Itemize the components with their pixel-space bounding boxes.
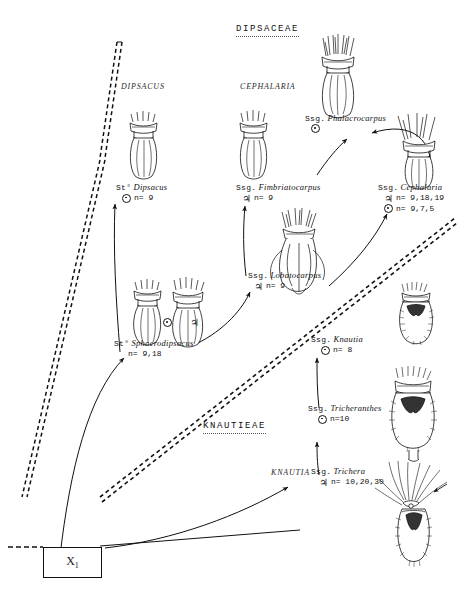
taxon-label-cephalaria[interactable]: Ssg. Cephalaria ♃ n= 9,18,19 n= 9,7,5 xyxy=(378,182,444,213)
chromosome-row xyxy=(311,124,386,133)
genus-label-cephalaria: CEPHALARIA xyxy=(240,82,296,91)
perennial-symbol-icon: ♃ xyxy=(254,282,263,291)
taxon-rank: Ssg. xyxy=(305,114,325,123)
taxon-label-phalacrocarpus[interactable]: Ssg. Phalacrocarpus xyxy=(305,113,386,133)
taxon-rank: Ssg. xyxy=(308,404,328,413)
diagram-lines-layer xyxy=(0,0,470,601)
chromosome-count: n= 9 xyxy=(266,281,285,290)
annual-symbol-icon xyxy=(163,318,172,327)
taxon-name: Trichera xyxy=(334,466,366,476)
boundary-band-dipsacus xyxy=(100,42,122,158)
annual-symbol-icon xyxy=(384,204,393,213)
arrow-tricheranthes-to-knautia xyxy=(317,358,319,408)
illustration-tricheranthes-achene xyxy=(389,366,437,461)
chromosome-count: n= 9,18,19 xyxy=(396,193,444,202)
chromosome-count: n=10 xyxy=(330,414,349,423)
annual-symbol-icon xyxy=(311,124,320,133)
chromosome-row-annual: n= 9,7,5 xyxy=(384,204,444,213)
taxon-rank: St° xyxy=(116,183,131,192)
boundary-band-knautieae xyxy=(100,218,457,502)
taxon-name: Cephalaria xyxy=(401,182,443,192)
sphaerodipsacus-lifeform-symbols: ♃ xyxy=(163,318,199,327)
chromosome-row: n= 9,18 xyxy=(128,349,194,358)
illustration-cephalaria-achene xyxy=(398,113,435,189)
illustration-trichera-achene xyxy=(375,461,447,567)
ancestor-label: X1 xyxy=(66,554,79,570)
taxon-label-tricheranthes[interactable]: Ssg. Tricheranthes n=10 xyxy=(308,403,382,424)
illustration-phalacrocarpus-achene xyxy=(322,34,354,118)
chromosome-row: n=10 xyxy=(318,414,382,423)
taxon-rank: Ssg. xyxy=(236,183,256,192)
arrow-lobatocarpus-to-cephalaria xyxy=(329,214,387,286)
chromosome-row: n= 9 xyxy=(122,193,167,202)
ancestor-box[interactable]: X1 xyxy=(43,547,102,578)
taxon-label-dipsacus[interactable]: St° Dipsacus n= 9 xyxy=(116,182,167,203)
ancestral-branch-line xyxy=(100,530,300,546)
taxon-name: Tricheranthes xyxy=(331,403,382,413)
taxon-label-lobatocarpus[interactable]: Ssg. Lobatocarpus ♃ n= 9 xyxy=(248,270,321,291)
taxon-label-sphaerodipsacus[interactable]: St° Sphaerodipsacus n= 9,18 xyxy=(114,338,194,359)
chromosome-count: n= 10,20,30 xyxy=(331,477,384,486)
perennial-symbol-icon: ♃ xyxy=(242,194,251,203)
arrow-lobatocarpus-to-fimbriatocarpus xyxy=(244,206,246,276)
taxon-label-knautia[interactable]: Ssg. Knautia n= 8 xyxy=(311,334,363,355)
arrow-x1-to-trichera xyxy=(105,487,288,548)
taxon-rank: Ssg. xyxy=(378,183,398,192)
arrow-sphaerodipsacus-to-lobatocarpus xyxy=(196,292,250,344)
tribe-heading: KNAUTIEAE xyxy=(203,421,266,434)
arrow-sphaerodipsacus-to-dipsacus xyxy=(114,204,120,352)
chromosome-count: n= 8 xyxy=(333,345,352,354)
taxon-name: Sphaerodipsacus xyxy=(131,338,193,348)
annual-symbol-icon xyxy=(318,415,327,424)
taxon-rank: St° xyxy=(114,339,129,348)
taxon-rank: Ssg. xyxy=(311,335,331,344)
arrow-x1-to-sphaerodipsacus xyxy=(60,358,124,556)
family-heading: DIPSACEAE xyxy=(236,24,299,37)
taxon-name: Dipsacus xyxy=(133,182,167,192)
chromosome-row: ♃ n= 10,20,30 xyxy=(319,477,384,486)
taxon-name: Knautia xyxy=(334,334,364,344)
perennial-symbol-icon: ♃ xyxy=(384,194,393,203)
chromosome-row: ♃ n= 9 xyxy=(242,193,321,202)
taxon-name: Fimbriatocarpus xyxy=(259,182,321,192)
illustration-sphaerodipsacus-achene-right xyxy=(173,277,204,347)
chromosome-count: n= 9 xyxy=(134,193,153,202)
chromosome-row: n= 8 xyxy=(321,345,363,354)
chromosome-count: n= 9,18 xyxy=(128,349,162,358)
genus-label-knautia: KNAUTIA xyxy=(271,468,310,477)
illustration-dipsacus-achene xyxy=(130,111,157,179)
chromosome-row-perennial: ♃ n= 9,18,19 xyxy=(384,193,444,202)
taxon-label-fimbriatocarpus[interactable]: Ssg. Fimbriatocarpus ♃ n= 9 xyxy=(236,182,321,203)
illustration-sphaerodipsacus-achene-left xyxy=(134,279,161,345)
taxon-rank: Ssg. xyxy=(248,271,268,280)
taxon-name: Lobatocarpus xyxy=(271,270,322,280)
chromosome-count: n= 9 xyxy=(254,193,273,202)
taxon-rank: Ssg. xyxy=(311,467,331,476)
arrow-to-phalacrocarpus xyxy=(317,139,347,175)
boundary-band-left-lower xyxy=(22,160,105,497)
figure-canvas: DIPSACEAE DIPSACUS CEPHALARIA KNAUTIA KN… xyxy=(0,0,470,601)
taxon-label-trichera[interactable]: Ssg. Trichera ♃ n= 10,20,30 xyxy=(311,466,384,487)
ancestor-subscript: 1 xyxy=(75,562,79,571)
chromosome-row: ♃ n= 9 xyxy=(254,281,321,290)
illustration-fimbriatocarpus-achene xyxy=(240,110,267,179)
annual-symbol-icon xyxy=(321,346,330,355)
annual-symbol-icon xyxy=(122,194,131,203)
ancestor-letter: X xyxy=(66,554,75,568)
perennial-symbol-icon: ♃ xyxy=(190,318,199,327)
illustration-knautia-achene xyxy=(399,282,434,345)
taxon-name: Phalacrocarpus xyxy=(328,113,387,123)
genus-label-dipsacus: DIPSACUS xyxy=(121,82,165,91)
chromosome-count: n= 9,7,5 xyxy=(396,204,434,213)
perennial-symbol-icon: ♃ xyxy=(319,478,328,487)
